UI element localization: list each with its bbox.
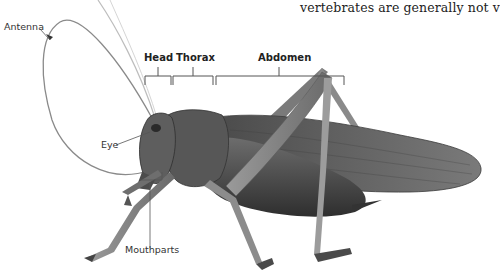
segment-label-abdomen: Abdomen: [258, 52, 311, 63]
mouthparts-label: Mouthparts: [125, 244, 179, 255]
segment-label-thorax: Thorax: [176, 52, 215, 63]
eye-label: Eye: [101, 139, 118, 150]
compound-eye: [151, 124, 161, 132]
bracket-head: [145, 76, 171, 85]
segment-label-head: Head: [144, 52, 173, 63]
antenna-label: Antenna: [4, 21, 44, 32]
bracket-thorax: [173, 76, 213, 85]
